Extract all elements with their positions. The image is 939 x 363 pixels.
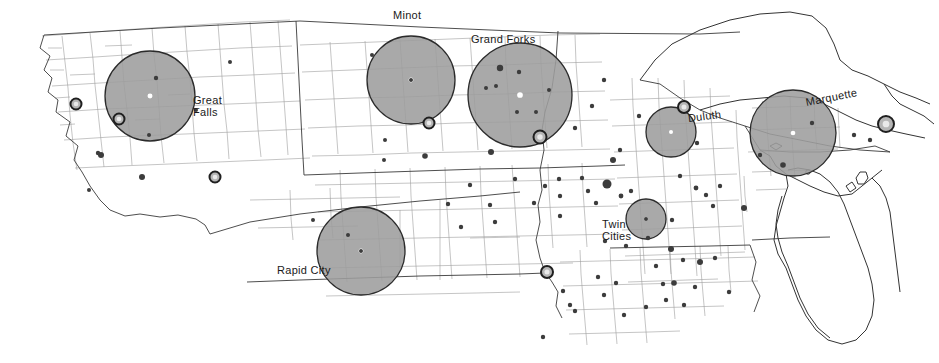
point-marker[interactable] bbox=[488, 203, 492, 207]
point-marker[interactable] bbox=[446, 202, 450, 206]
point-marker[interactable] bbox=[654, 264, 658, 268]
ring-sioux-city[interactable] bbox=[541, 266, 553, 278]
point-marker[interactable] bbox=[741, 205, 747, 211]
point-marker[interactable] bbox=[147, 133, 151, 137]
ring-marker-inner bbox=[681, 104, 686, 109]
point-marker[interactable] bbox=[661, 282, 665, 286]
point-marker[interactable] bbox=[664, 298, 668, 302]
point-marker[interactable] bbox=[493, 220, 497, 224]
point-marker[interactable] bbox=[668, 246, 674, 252]
point-marker[interactable] bbox=[629, 189, 633, 193]
point-marker[interactable] bbox=[602, 293, 606, 297]
market-circle-layer bbox=[105, 36, 836, 295]
point-marker[interactable] bbox=[697, 259, 703, 265]
point-marker[interactable] bbox=[624, 244, 628, 248]
point-marker[interactable] bbox=[610, 157, 616, 163]
point-marker[interactable] bbox=[517, 70, 521, 74]
point-marker[interactable] bbox=[622, 313, 626, 317]
point-marker[interactable] bbox=[382, 158, 386, 162]
point-marker[interactable] bbox=[383, 138, 387, 142]
ring-minot-s[interactable] bbox=[424, 118, 435, 129]
ring-fargo[interactable] bbox=[534, 131, 547, 144]
city-label-minot: Minot bbox=[393, 10, 421, 22]
point-marker[interactable] bbox=[534, 110, 538, 114]
ring-marker-inner bbox=[74, 102, 79, 107]
point-marker[interactable] bbox=[558, 194, 562, 198]
ring-sault[interactable] bbox=[878, 116, 894, 132]
ring-s-montana[interactable] bbox=[210, 172, 221, 183]
market-center-dot bbox=[148, 94, 153, 99]
point-marker[interactable] bbox=[586, 189, 590, 193]
point-marker[interactable] bbox=[695, 141, 699, 145]
point-marker[interactable] bbox=[780, 162, 786, 168]
point-marker[interactable] bbox=[573, 309, 577, 313]
ring-great-falls-sw[interactable] bbox=[114, 114, 125, 125]
point-marker[interactable] bbox=[711, 204, 715, 208]
point-marker[interactable] bbox=[596, 275, 600, 279]
point-marker[interactable] bbox=[694, 186, 699, 191]
point-marker[interactable] bbox=[644, 217, 648, 221]
point-marker[interactable] bbox=[619, 194, 624, 199]
point-marker[interactable] bbox=[594, 201, 598, 205]
map-container: Great FallsMinotGrand ForksDuluthMarquet… bbox=[0, 0, 939, 363]
point-marker[interactable] bbox=[359, 249, 363, 253]
point-marker[interactable] bbox=[422, 153, 428, 159]
point-marker[interactable] bbox=[558, 214, 562, 218]
market-circle-grand-forks[interactable] bbox=[468, 43, 572, 147]
point-marker[interactable] bbox=[154, 76, 158, 80]
point-marker[interactable] bbox=[852, 133, 856, 137]
point-marker[interactable] bbox=[557, 177, 561, 181]
point-marker[interactable] bbox=[603, 180, 612, 189]
point-marker[interactable] bbox=[646, 236, 650, 240]
point-marker[interactable] bbox=[515, 110, 519, 114]
market-center-dot bbox=[791, 131, 796, 136]
city-label-twin-cities: Twin Cities bbox=[602, 219, 631, 242]
point-marker[interactable] bbox=[580, 176, 584, 180]
point-marker[interactable] bbox=[637, 114, 641, 118]
point-marker[interactable] bbox=[484, 86, 488, 90]
point-marker[interactable] bbox=[678, 174, 682, 178]
point-marker[interactable] bbox=[370, 53, 374, 57]
point-marker[interactable] bbox=[568, 303, 572, 307]
point-marker[interactable] bbox=[681, 258, 685, 262]
point-marker[interactable] bbox=[590, 104, 594, 108]
point-marker[interactable] bbox=[727, 290, 731, 294]
point-marker[interactable] bbox=[468, 183, 472, 187]
point-marker[interactable] bbox=[670, 218, 674, 222]
point-marker[interactable] bbox=[618, 148, 622, 152]
point-marker[interactable] bbox=[139, 174, 145, 180]
point-marker[interactable] bbox=[704, 193, 708, 197]
point-marker[interactable] bbox=[718, 184, 722, 188]
point-marker[interactable] bbox=[644, 305, 648, 309]
point-marker[interactable] bbox=[346, 233, 350, 237]
market-center-dot bbox=[517, 92, 523, 98]
market-circle-great-falls[interactable] bbox=[105, 51, 195, 141]
point-marker[interactable] bbox=[573, 126, 577, 130]
point-marker[interactable] bbox=[541, 335, 545, 339]
ring-w-montana[interactable] bbox=[71, 99, 82, 110]
point-marker[interactable] bbox=[561, 289, 565, 293]
point-marker[interactable] bbox=[513, 177, 517, 181]
point-marker[interactable] bbox=[693, 285, 697, 289]
point-marker[interactable] bbox=[494, 84, 498, 88]
point-marker[interactable] bbox=[228, 60, 232, 64]
point-marker[interactable] bbox=[682, 303, 686, 307]
point-marker[interactable] bbox=[713, 256, 717, 260]
point-marker[interactable] bbox=[488, 149, 494, 155]
point-marker[interactable] bbox=[96, 151, 100, 155]
point-marker[interactable] bbox=[87, 188, 91, 192]
point-marker[interactable] bbox=[671, 280, 677, 286]
point-marker[interactable] bbox=[547, 88, 551, 92]
point-marker[interactable] bbox=[602, 78, 606, 82]
point-marker[interactable] bbox=[311, 218, 315, 222]
point-marker[interactable] bbox=[543, 184, 547, 188]
ring-marker-inner bbox=[213, 175, 218, 180]
point-marker[interactable] bbox=[868, 138, 872, 142]
point-marker[interactable] bbox=[409, 78, 413, 82]
point-marker[interactable] bbox=[758, 153, 762, 157]
point-marker[interactable] bbox=[532, 201, 536, 205]
point-marker[interactable] bbox=[810, 121, 814, 125]
point-marker[interactable] bbox=[497, 65, 503, 71]
point-marker[interactable] bbox=[614, 281, 618, 285]
point-marker[interactable] bbox=[459, 225, 463, 229]
